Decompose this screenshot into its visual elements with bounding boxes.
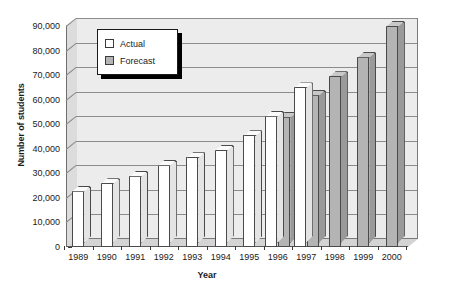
bar-front-face (101, 183, 113, 247)
bar-side-face (141, 172, 148, 243)
bar-front-face (265, 116, 277, 247)
bar-front-face (186, 157, 198, 247)
legend-swatch-forecast-icon (105, 56, 114, 65)
legend-label-actual: Actual (120, 39, 145, 49)
bar-side-face (227, 146, 234, 243)
x-axis-tick-label: 1995 (239, 252, 259, 262)
bar-side-face (369, 53, 376, 243)
x-axis-tick-mark (321, 246, 322, 250)
y-axis-tick-labels: 010,00020,00030,00040,00050,00060,00070,… (6, 0, 60, 300)
x-axis-tick-label: 1999 (353, 252, 373, 262)
y-axis-tick-label: 0 (6, 242, 60, 252)
bar-forecast-1998 (329, 76, 341, 247)
bar-side-face (319, 91, 326, 243)
x-axis-tick-mark (64, 246, 65, 250)
x-axis-tick-mark (235, 246, 236, 250)
bar-side-face (198, 153, 205, 243)
plot-left-wall-edge (66, 26, 67, 247)
gridline (76, 18, 417, 19)
x-axis-tick-mark (349, 246, 350, 250)
bar-forecast-1999 (357, 57, 369, 247)
bar-actual-1989 (72, 191, 84, 247)
x-axis-tick-label: 1994 (211, 252, 231, 262)
legend-label-forecast: Forecast (120, 56, 155, 66)
x-axis-tick-mark (207, 246, 208, 250)
bar-side-face (170, 161, 177, 243)
bar-side-face (255, 131, 262, 243)
bar-side-face (398, 22, 405, 243)
bar-side-face (341, 72, 348, 243)
y-axis-tick-label: 70,000 (6, 70, 60, 80)
x-axis-tick-label: 2000 (382, 252, 402, 262)
x-axis-tick-labels: 1989199019911992199319941995199619971998… (66, 249, 418, 269)
bar-actual-1994 (215, 150, 227, 247)
bar-actual-1992 (158, 165, 170, 247)
y-axis-tick-label: 10,000 (6, 217, 60, 227)
y-axis-tick-label: 60,000 (6, 95, 60, 105)
y-axis-tick-label: 90,000 (6, 21, 60, 31)
y-axis-tick-label: 80,000 (6, 46, 60, 56)
y-axis-tick-label: 30,000 (6, 168, 60, 178)
bar-front-face (329, 76, 341, 247)
bar-front-face (129, 176, 141, 247)
legend-item-actual[interactable]: Actual (105, 35, 177, 52)
x-axis-tick-label: 1997 (296, 252, 316, 262)
x-axis-tick-label: 1996 (268, 252, 288, 262)
y-axis-tick-label: 50,000 (6, 119, 60, 129)
y-axis-tick-mark (68, 247, 72, 248)
bar-side-face (84, 187, 91, 243)
legend-swatch-actual-icon (105, 39, 114, 48)
bar-chart: Number of students 010,00020,00030,00040… (0, 0, 450, 300)
y-axis-tick-label: 40,000 (6, 144, 60, 154)
x-axis-tick-mark (178, 246, 179, 250)
bar-side-face (306, 83, 313, 243)
bar-actual-1993 (186, 157, 198, 247)
x-axis-tick-label: 1992 (154, 252, 174, 262)
x-axis-tick-mark (406, 246, 407, 250)
x-axis-tick-label: 1991 (125, 252, 145, 262)
bar-front-face (72, 191, 84, 247)
bar-front-face (215, 150, 227, 247)
x-axis-tick-mark (378, 246, 379, 250)
x-axis-tick-label: 1990 (97, 252, 117, 262)
bar-side-face (277, 112, 284, 243)
bar-front-face (386, 26, 398, 247)
x-axis-tick-label: 1993 (182, 252, 202, 262)
legend-item-forecast[interactable]: Forecast (105, 52, 177, 69)
y-axis-tick-label: 20,000 (6, 193, 60, 203)
bar-side-face (113, 179, 120, 243)
bar-forecast-2000 (386, 26, 398, 247)
legend: Actual Forecast (97, 29, 178, 75)
x-axis-tick-mark (150, 246, 151, 250)
bar-front-face (243, 135, 255, 247)
x-axis-tick-mark (121, 246, 122, 250)
bar-front-face (294, 87, 306, 247)
bar-front-face (158, 165, 170, 247)
bar-actual-1996 (265, 116, 277, 247)
bar-actual-1990 (101, 183, 113, 247)
x-axis-tick-label: 1998 (325, 252, 345, 262)
x-axis-title-text: Year (197, 270, 216, 280)
bar-actual-1991 (129, 176, 141, 247)
x-axis-tick-mark (93, 246, 94, 250)
x-axis-title: Year (0, 270, 450, 280)
bar-actual-1997 (294, 87, 306, 247)
x-axis-tick-label: 1989 (68, 252, 88, 262)
bar-front-face (357, 57, 369, 247)
bar-actual-1995 (243, 135, 255, 247)
